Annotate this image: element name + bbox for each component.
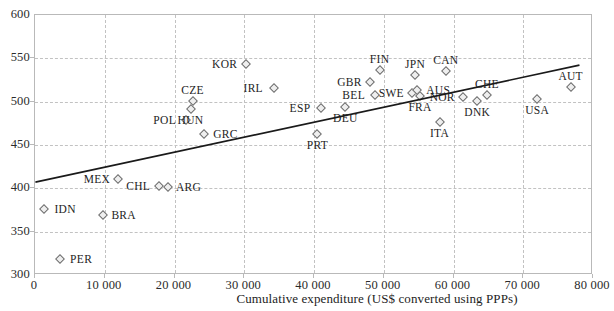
data-point-bra xyxy=(98,210,108,220)
y-axis-tick-labels: 300350400450500550600 xyxy=(0,0,34,311)
data-point-label-arg: ARG xyxy=(176,181,201,193)
x-tick-mark-40000 xyxy=(313,274,314,278)
data-point-fra xyxy=(415,92,425,102)
data-point-mex xyxy=(113,174,123,184)
y-tick-mark-450 xyxy=(30,144,34,145)
x-axis-title: Cumulative expenditure (US$ converted us… xyxy=(0,291,614,307)
data-point-label-per: PER xyxy=(70,253,92,265)
data-point-label-can: CAN xyxy=(433,54,458,66)
data-point-dnk xyxy=(472,96,482,106)
y-tick-mark-550 xyxy=(30,57,34,58)
data-point-label-mex: MEX xyxy=(84,173,110,185)
y-tick-mark-500 xyxy=(30,101,34,102)
data-point-aut xyxy=(566,82,576,92)
data-point-label-fin: FIN xyxy=(370,53,389,65)
scatter-chart-figure: 300350400450500550600 IDNPERBRAMEXCHLARG… xyxy=(0,0,614,311)
data-point-grc xyxy=(200,129,210,139)
data-point-ita xyxy=(435,117,445,127)
data-point-label-pol: POL xyxy=(153,114,176,126)
data-point-idn xyxy=(39,204,49,214)
x-tick-mark-10000 xyxy=(104,274,105,278)
y-tick-label-600: 600 xyxy=(11,7,30,22)
y-tick-label-550: 550 xyxy=(11,50,30,65)
gridline-y-350 xyxy=(35,232,591,233)
y-tick-label-400: 400 xyxy=(11,180,30,195)
cropped-title-strip xyxy=(0,0,614,6)
data-point-label-dnk: DNK xyxy=(464,106,490,118)
data-point-label-che: CHE xyxy=(475,78,499,90)
x-axis-title-text: Cumulative expenditure (US$ converted us… xyxy=(96,291,517,307)
data-point-kor xyxy=(241,59,251,69)
data-point-label-hun: HUN xyxy=(178,114,204,126)
data-point-label-kor: KOR xyxy=(212,58,237,70)
data-point-can xyxy=(441,66,451,76)
data-point-label-bra: BRA xyxy=(111,209,136,221)
x-tick-mark-30000 xyxy=(243,274,244,278)
x-tick-mark-20000 xyxy=(174,274,175,278)
data-point-label-usa: USA xyxy=(525,104,549,116)
data-point-irl xyxy=(269,83,279,93)
data-point-label-fra: FRA xyxy=(408,101,431,113)
data-point-per xyxy=(55,254,65,264)
data-point-jpn xyxy=(410,70,420,80)
data-point-hun xyxy=(186,105,196,115)
data-point-label-esp: ESP xyxy=(290,102,311,114)
data-point-deu xyxy=(340,102,350,112)
data-point-label-prt: PRT xyxy=(307,139,328,151)
data-point-label-aut: AUT xyxy=(558,70,583,82)
data-point-label-deu: DEU xyxy=(333,112,358,124)
data-point-label-chl: CHL xyxy=(126,180,150,192)
y-tick-label-300: 300 xyxy=(11,267,30,282)
gridline-y-400 xyxy=(35,188,591,189)
data-point-esp xyxy=(316,103,326,113)
data-point-label-irl: IRL xyxy=(244,82,263,94)
data-point-label-gbr: GBR xyxy=(337,76,362,88)
x-tick-mark-60000 xyxy=(453,274,454,278)
data-point-gbr xyxy=(366,77,376,87)
data-point-label-grc: GRC xyxy=(213,128,238,140)
x-tick-mark-80000 xyxy=(592,274,593,278)
x-tick-mark-70000 xyxy=(522,274,523,278)
y-tick-label-500: 500 xyxy=(11,93,30,108)
data-point-label-cze: CZE xyxy=(181,84,204,96)
data-point-che xyxy=(482,90,492,100)
gridline-y-500 xyxy=(35,102,591,103)
data-point-label-bel: BEL xyxy=(342,89,365,101)
data-point-label-jpn: JPN xyxy=(405,58,425,70)
gridline-y-550 xyxy=(35,58,591,59)
y-tick-label-350: 350 xyxy=(11,223,30,238)
y-tick-mark-400 xyxy=(30,187,34,188)
data-point-label-swe: SWE xyxy=(379,87,404,99)
data-point-arg xyxy=(163,183,173,193)
y-tick-mark-350 xyxy=(30,231,34,232)
gridline-x-20000 xyxy=(175,15,176,273)
plot-area: IDNPERBRAMEXCHLARGPOLHUNCZEGRCKORIRLPRTE… xyxy=(34,14,592,274)
data-point-label-ita: ITA xyxy=(430,127,449,139)
x-tick-mark-50000 xyxy=(383,274,384,278)
data-point-label-nor: NOR xyxy=(430,91,455,103)
data-point-label-idn: IDN xyxy=(54,203,75,215)
y-tick-label-450: 450 xyxy=(11,137,30,152)
gridline-x-30000 xyxy=(244,15,245,273)
x-tick-mark-0 xyxy=(34,274,35,278)
gridline-x-70000 xyxy=(523,15,524,273)
gridline-x-10000 xyxy=(105,15,106,273)
